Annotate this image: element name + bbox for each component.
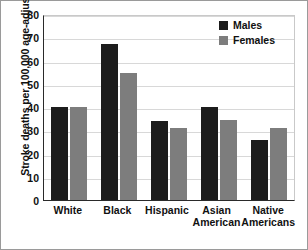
bar-males-0[interactable] <box>51 107 68 200</box>
bar-males-3[interactable] <box>201 107 218 200</box>
legend-item-females[interactable]: Females <box>219 34 275 46</box>
x-tick-label-0: White <box>43 204 93 228</box>
bar-males-1[interactable] <box>101 44 118 200</box>
chart-figure: Stroke deaths per 100,000 age-adjusted 0… <box>0 0 308 250</box>
bar-group <box>94 16 144 200</box>
x-tick-label-1: Black <box>93 204 143 228</box>
bar-females-4[interactable] <box>270 128 287 200</box>
y-tick-label-6: 60 <box>27 56 39 68</box>
y-tick-label-4: 40 <box>27 102 39 114</box>
legend-swatch-icon <box>219 36 228 45</box>
bar-females-3[interactable] <box>220 120 237 200</box>
y-tick-label-8: 80 <box>27 9 39 21</box>
y-tick-label-0: 0 <box>33 195 39 207</box>
bar-group <box>44 16 94 200</box>
x-tick-label-3: Asian American <box>192 204 242 228</box>
legend-item-males[interactable]: Males <box>219 19 275 31</box>
bar-group <box>144 16 194 200</box>
y-tick-label-1: 10 <box>27 172 39 184</box>
x-axis-tick-labels: WhiteBlackHispanicAsian AmericanNative A… <box>43 204 295 228</box>
y-tick-label-5: 50 <box>27 79 39 91</box>
x-tick-label-4: Native Americans <box>241 204 295 228</box>
y-tick-label-3: 30 <box>27 125 39 137</box>
y-tick-label-7: 70 <box>27 32 39 44</box>
bar-females-0[interactable] <box>70 107 87 200</box>
bar-males-4[interactable] <box>251 140 268 200</box>
legend-label: Females <box>233 34 275 46</box>
legend-swatch-icon <box>219 21 228 30</box>
x-tick-label-2: Hispanic <box>142 204 192 228</box>
bar-males-2[interactable] <box>151 121 168 200</box>
y-tick-label-2: 20 <box>27 149 39 161</box>
legend-label: Males <box>233 19 262 31</box>
bar-females-1[interactable] <box>120 73 137 200</box>
legend: MalesFemales <box>219 19 275 49</box>
bar-females-2[interactable] <box>170 128 187 200</box>
y-axis-tick-labels: 01020304050607080 <box>15 15 39 201</box>
